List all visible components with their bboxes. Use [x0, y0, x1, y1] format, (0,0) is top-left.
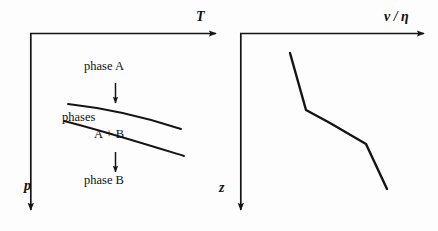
- lower-phase-boundary-curve: [64, 121, 184, 156]
- velocity-profile-group: [290, 53, 387, 189]
- depth-axis-label: z: [219, 181, 224, 195]
- velocity-profile-curve: [290, 53, 387, 189]
- phase-b-label: phase B: [84, 174, 124, 187]
- right-panel-axes: [240, 33, 424, 210]
- phase-a-label: phase A: [84, 60, 124, 73]
- figure-canvas: T p v / η z phase A phases A + B phase B: [0, 0, 438, 231]
- phases-a-plus-b-label: A + B: [94, 128, 124, 141]
- phases-label: phases: [62, 111, 95, 124]
- pressure-axis-label: p: [24, 179, 31, 193]
- velocity-axis-label: v / η: [384, 10, 409, 24]
- temperature-axis-label: T: [196, 10, 205, 24]
